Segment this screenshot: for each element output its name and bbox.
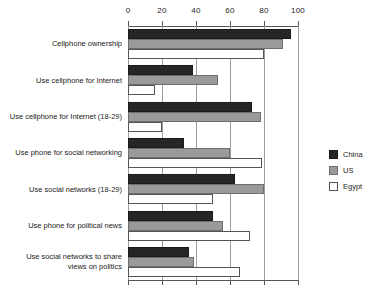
bar-china xyxy=(128,102,252,112)
bar-us xyxy=(128,184,264,194)
x-tick-top xyxy=(230,21,231,26)
gridline xyxy=(230,26,231,280)
bar-us xyxy=(128,112,261,122)
bar-us xyxy=(128,148,230,158)
bar-egypt xyxy=(128,194,213,204)
category-label: Use phone for social networking xyxy=(0,148,122,158)
x-tick-label: 0 xyxy=(126,6,131,15)
legend-swatch-icon xyxy=(329,150,338,159)
legend-label: China xyxy=(343,151,363,159)
legend-item-us[interactable]: US xyxy=(329,164,363,177)
category-label: Use cellphone for Internet (18-29) xyxy=(0,112,122,122)
category-label: Use social networks to share views on po… xyxy=(0,252,122,271)
category-label: Use social networks (18-29) xyxy=(0,185,122,195)
category-label: Use phone for political news xyxy=(0,221,122,231)
bar-us xyxy=(128,39,283,49)
x-tick-bottom xyxy=(196,280,197,285)
bar-chart: 020406080100 Cellphone ownershipUse cell… xyxy=(0,0,384,302)
bar-china xyxy=(128,29,291,39)
bar-egypt xyxy=(128,49,264,59)
gridline xyxy=(298,26,299,280)
bar-egypt xyxy=(128,158,262,168)
legend-label: US xyxy=(343,167,353,175)
x-tick-top xyxy=(298,21,299,26)
legend-item-china[interactable]: China xyxy=(329,148,363,161)
legend-swatch-icon xyxy=(329,166,338,175)
x-axis-bottom xyxy=(128,280,299,281)
bar-egypt xyxy=(128,267,240,277)
category-label: Cellphone ownership xyxy=(0,39,122,49)
bar-us xyxy=(128,257,194,267)
x-tick-bottom xyxy=(162,280,163,285)
legend-item-egypt[interactable]: Egypt xyxy=(329,180,363,193)
gridline xyxy=(264,26,265,280)
bar-egypt xyxy=(128,231,250,241)
x-tick-top xyxy=(162,21,163,26)
bar-egypt xyxy=(128,122,162,132)
x-tick-label: 80 xyxy=(259,6,268,15)
x-tick-bottom xyxy=(230,280,231,285)
bar-china xyxy=(128,65,193,75)
legend-swatch-icon xyxy=(329,182,338,191)
x-tick-bottom xyxy=(264,280,265,285)
bar-china xyxy=(128,247,189,257)
x-tick-label: 20 xyxy=(157,6,166,15)
plot-area: 020406080100 xyxy=(128,26,298,280)
x-tick-bottom xyxy=(298,280,299,285)
x-tick-label: 40 xyxy=(191,6,200,15)
bar-us xyxy=(128,75,218,85)
legend-label: Egypt xyxy=(343,183,362,191)
bar-us xyxy=(128,221,223,231)
chart-legend: ChinaUSEgypt xyxy=(329,148,363,196)
bar-egypt xyxy=(128,85,155,95)
x-tick-label: 60 xyxy=(225,6,234,15)
x-tick-label: 100 xyxy=(291,6,305,15)
x-tick-top xyxy=(128,21,129,26)
bar-china xyxy=(128,174,235,184)
category-label: Use cellphone for Internet xyxy=(0,76,122,86)
x-tick-top xyxy=(264,21,265,26)
x-tick-bottom xyxy=(128,280,129,285)
x-tick-top xyxy=(196,21,197,26)
bar-china xyxy=(128,138,184,148)
bar-china xyxy=(128,211,213,221)
